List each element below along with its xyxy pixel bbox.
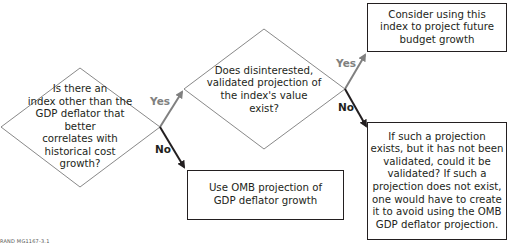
text-line: Does disinterested, [207,65,322,78]
text-line: GDP deflator that better [20,108,140,133]
text-line: Is there an [20,83,140,96]
no-label-2: No [338,101,354,113]
text-line: GDP deflator projection. [371,219,504,232]
text-line: one would have to create [371,194,504,207]
text-line: validated projection of [207,77,322,90]
yes-label-1: Yes [150,95,170,107]
text-line: index other than the [20,96,140,109]
text-line: exist? [207,103,322,116]
text-line: the index's value [207,90,322,103]
text-line: exists, but it has not been [371,143,504,156]
figure-source-label: RAND MG1167-3.1 [0,238,50,244]
yes-label-2: Yes [336,57,356,69]
text-line: projection does not exist, [371,181,504,194]
decision-1-text: Is there an index other than the GDP def… [20,80,140,174]
text-line: index to project future [380,21,494,34]
no-label-1: No [155,143,171,155]
text-line: it to avoid using the OMB [371,206,504,219]
text-line: Consider using this [380,9,494,22]
text-line: historical cost [20,146,140,159]
text-line: validated? If such a [371,168,504,181]
text-line: budget growth [380,34,494,47]
consider-index-text: Consider using this index to project fut… [368,4,506,51]
text-line: growth? [20,158,140,171]
text-line: GDP deflator growth [209,195,322,208]
text-line: Use OMB projection of [209,182,322,195]
text-line: validated, could it be [371,156,504,169]
use-omb-text: Use OMB projection of GDP deflator growt… [188,171,343,219]
create-projection-text: If such a projection exists, but it has … [368,123,506,239]
text-line: correlates with [20,133,140,146]
text-line: If such a projection [371,131,504,144]
decision-2-text: Does disinterested, validated projection… [200,62,328,118]
